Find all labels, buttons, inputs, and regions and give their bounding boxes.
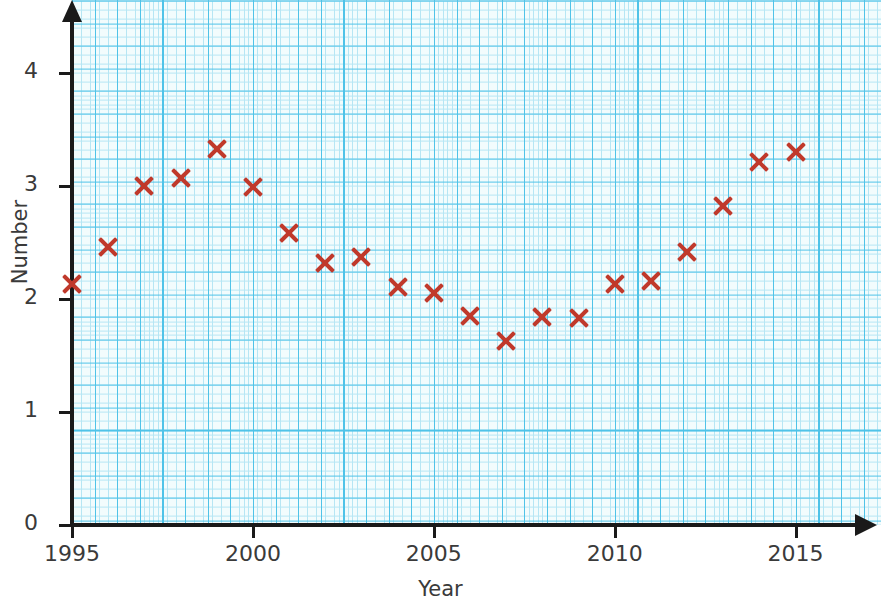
data-point-2005 (421, 280, 447, 306)
y-axis-title: Number (8, 192, 32, 292)
x-axis-arrow-icon (855, 514, 877, 536)
data-point-2015 (783, 139, 809, 165)
data-point-2014 (746, 149, 772, 175)
y-tick-3 (59, 185, 72, 188)
x-tick-2000 (252, 525, 255, 538)
y-tick-label-1: 1 (8, 397, 38, 422)
x-tick-2010 (614, 525, 617, 538)
data-point-2009 (566, 305, 592, 331)
plot-area-graph-paper (72, 0, 881, 525)
x-tick-label-2005: 2005 (389, 541, 479, 566)
data-point-2001 (276, 220, 302, 246)
data-point-1995 (59, 271, 85, 297)
x-axis-title: Year (0, 577, 881, 601)
y-tick-4 (59, 72, 72, 75)
y-tick-label-0: 0 (8, 510, 38, 535)
x-tick-label-1995: 1995 (27, 541, 117, 566)
data-point-1996 (95, 234, 121, 260)
data-point-1999 (204, 136, 230, 162)
x-tick-2015 (795, 525, 798, 538)
data-point-2003 (348, 244, 374, 270)
data-point-2012 (674, 239, 700, 265)
data-point-2000 (240, 174, 266, 200)
data-point-2013 (710, 193, 736, 219)
data-point-2004 (385, 274, 411, 300)
data-point-2007 (493, 328, 519, 354)
data-point-2010 (602, 271, 628, 297)
x-tick-label-2000: 2000 (208, 541, 298, 566)
scatter-chart: 01234 19952000200520102015 Number Year (0, 0, 881, 609)
y-tick-2 (59, 298, 72, 301)
data-point-1997 (131, 173, 157, 199)
x-axis-line (70, 523, 860, 527)
x-tick-2005 (433, 525, 436, 538)
x-tick-label-2015: 2015 (751, 541, 841, 566)
data-point-2006 (457, 303, 483, 329)
data-point-2002 (312, 250, 338, 276)
data-point-2011 (638, 268, 664, 294)
data-point-1998 (168, 165, 194, 191)
y-tick-label-4: 4 (8, 58, 38, 83)
x-tick-1995 (71, 525, 74, 538)
data-point-2008 (529, 304, 555, 330)
x-tick-label-2010: 2010 (570, 541, 660, 566)
y-axis-arrow-icon (62, 0, 82, 22)
y-tick-1 (59, 411, 72, 414)
